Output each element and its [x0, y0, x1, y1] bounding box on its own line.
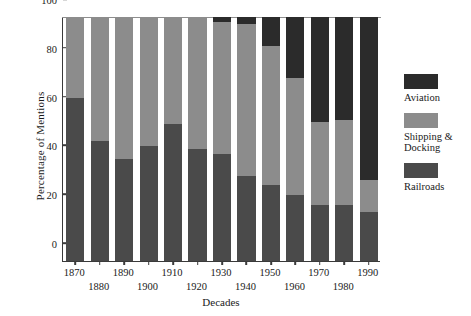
bar-segment-railroads	[213, 154, 231, 261]
x-axis-tick-mark	[148, 261, 150, 265]
plot-area: 020406080100	[62, 18, 380, 262]
x-axis-tick-label: 1980	[333, 281, 354, 292]
bar-segment-railroads	[311, 205, 329, 261]
x-axis-tick-label: 1960	[284, 281, 305, 292]
bar-segment-aviation	[311, 17, 329, 122]
y-axis-tick-label: 20	[47, 190, 64, 201]
x-axis-tick-label: 1970	[308, 267, 329, 278]
bar-segment-shipping-docking	[164, 17, 182, 124]
bar-segment-railroads	[286, 195, 304, 261]
bar-1920[interactable]	[188, 17, 206, 261]
bar-segment-railroads	[91, 141, 109, 261]
x-axis-tick-mark	[319, 261, 321, 265]
legend-label: Railroads	[404, 181, 470, 193]
legend-label: Aviation	[404, 92, 470, 104]
x-axis-tick-mark	[295, 261, 297, 265]
bar-segment-shipping-docking	[360, 180, 378, 212]
chart-figure: Percentage of Mentions 020406080100 1870…	[0, 0, 471, 316]
legend-label: Shipping & Docking	[404, 131, 470, 154]
bar-1970[interactable]	[311, 17, 329, 261]
legend-swatch	[404, 163, 438, 178]
x-axis-tick-mark	[221, 261, 223, 265]
y-axis-tick-label: 100	[41, 0, 63, 6]
bar-1950[interactable]	[262, 17, 280, 261]
y-axis-tick: 60	[47, 88, 64, 106]
x-axis-tick-label: 1870	[64, 267, 85, 278]
legend-entry[interactable]: Railroads	[404, 163, 470, 193]
x-axis-tick-label: 1880	[88, 281, 109, 292]
bar-1910[interactable]	[164, 17, 182, 261]
x-axis-tick-label: 1900	[137, 281, 158, 292]
bar-1930[interactable]	[213, 17, 231, 261]
bar-segment-railroads	[360, 212, 378, 261]
bar-segment-shipping-docking	[66, 17, 84, 98]
bar-1890[interactable]	[115, 17, 133, 261]
x-axis-tick-mark	[270, 261, 272, 265]
bar-segment-aviation	[286, 17, 304, 78]
y-axis-tick-label: 60	[47, 93, 64, 104]
y-axis-tick-label: 0	[52, 239, 63, 250]
x-axis-tick-label: 1920	[186, 281, 207, 292]
bar-1990[interactable]	[360, 17, 378, 261]
bar-segment-aviation	[262, 17, 280, 46]
bar-segment-railroads	[66, 98, 84, 261]
bar-1940[interactable]	[237, 17, 255, 261]
bar-segment-aviation	[237, 17, 255, 24]
bar-1980[interactable]	[335, 17, 353, 261]
y-axis-tick: 20	[47, 185, 64, 203]
bar-segment-shipping-docking	[335, 120, 353, 205]
x-axis-tick-label: 1990	[357, 267, 378, 278]
bar-segment-shipping-docking	[91, 17, 109, 141]
y-axis-tick: 80	[47, 39, 64, 57]
x-axis-tick-mark	[368, 261, 370, 265]
legend-swatch	[404, 113, 438, 128]
x-axis-tick-label: 1890	[113, 267, 134, 278]
x-axis-tick-label: 1930	[211, 267, 232, 278]
x-axis-tick-mark	[197, 261, 199, 265]
bar-segment-railroads	[115, 159, 133, 261]
bar-segment-shipping-docking	[262, 46, 280, 185]
x-axis-title: Decades	[62, 296, 380, 308]
x-axis-tick-label: 1940	[235, 281, 256, 292]
y-axis-tick-label: 40	[47, 141, 64, 152]
legend-swatch	[404, 74, 438, 89]
y-axis-tick: 100	[41, 0, 63, 8]
x-axis-tick-label: 1950	[259, 267, 280, 278]
bar-1870[interactable]	[66, 17, 84, 261]
x-axis-tick-mark	[123, 261, 125, 265]
bar-segment-shipping-docking	[213, 22, 231, 154]
bar-segment-shipping-docking	[237, 24, 255, 175]
legend-entry[interactable]: Shipping & Docking	[404, 113, 470, 154]
x-axis-tick-mark	[344, 261, 346, 265]
y-axis-title: Percentage of Mentions	[34, 46, 46, 246]
x-axis-tick-mark	[74, 261, 76, 265]
bar-segment-shipping-docking	[311, 122, 329, 205]
bar-1880[interactable]	[91, 17, 109, 261]
bar-segment-shipping-docking	[188, 17, 206, 149]
x-axis-tick-mark	[172, 261, 174, 265]
bar-segment-railroads	[262, 185, 280, 261]
x-axis-tick-mark	[246, 261, 248, 265]
bar-segment-railroads	[188, 149, 206, 261]
bar-segment-shipping-docking	[286, 78, 304, 195]
legend-entry[interactable]: Aviation	[404, 74, 470, 104]
bar-segment-aviation	[335, 17, 353, 119]
bar-segment-railroads	[237, 176, 255, 261]
bar-segment-railroads	[164, 124, 182, 261]
chart-legend: AviationShipping & DockingRailroads	[404, 74, 470, 201]
x-axis-tick-label: 1910	[162, 267, 183, 278]
y-axis-tick: 0	[52, 234, 63, 252]
bar-segment-shipping-docking	[115, 17, 133, 159]
bar-segment-aviation	[360, 17, 378, 180]
bar-1960[interactable]	[286, 17, 304, 261]
bar-segment-railroads	[140, 146, 158, 261]
bar-1900[interactable]	[140, 17, 158, 261]
y-axis-tick: 40	[47, 136, 64, 154]
x-axis-tick-mark	[99, 261, 101, 265]
bar-segment-railroads	[335, 205, 353, 261]
bar-segment-shipping-docking	[140, 17, 158, 146]
y-axis-tick-label: 80	[47, 44, 64, 55]
